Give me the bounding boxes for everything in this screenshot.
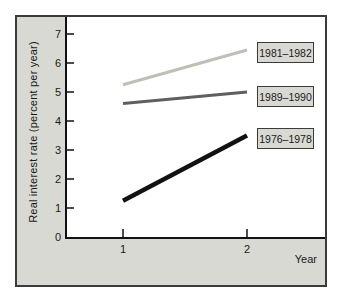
- x-tick-label: 2: [237, 242, 257, 256]
- series-label: 1989–1990: [259, 91, 312, 103]
- chart-figure: Real interest rate (percent per year) 01…: [15, 15, 327, 287]
- page: Real interest rate (percent per year) 01…: [0, 0, 343, 296]
- series-label-box: 1976–1978: [257, 128, 314, 149]
- x-axis-title: Year: [295, 253, 317, 265]
- series-label-box: 1989–1990: [257, 86, 314, 107]
- x-tick-label: 1: [113, 242, 133, 256]
- series-label-box: 1981–1982: [257, 42, 314, 63]
- series-label: 1976–1978: [259, 133, 312, 145]
- series-label: 1981–1982: [259, 47, 312, 59]
